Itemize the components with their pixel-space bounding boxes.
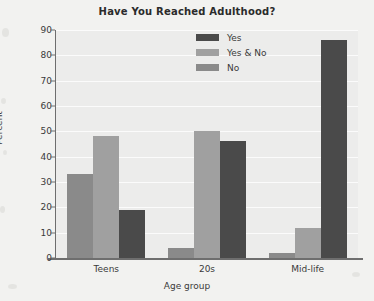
bar — [220, 141, 246, 258]
bar-chart: Have You Reached Adulthood? 010203040506… — [0, 0, 374, 301]
bar — [168, 248, 194, 258]
y-tick-mark — [50, 55, 55, 56]
y-tick-label: 50 — [12, 126, 52, 136]
y-axis-title: Percent — [0, 111, 4, 145]
bar — [321, 40, 347, 258]
y-tick-mark — [50, 207, 55, 208]
y-tick-label: 30 — [12, 177, 52, 187]
y-tick-mark — [50, 131, 55, 132]
legend-label: Yes & No — [227, 48, 267, 58]
y-tick-mark — [50, 106, 55, 107]
y-axis-line — [55, 30, 56, 259]
x-axis-line — [48, 258, 363, 260]
y-tick-mark — [50, 258, 55, 259]
chart-title: Have You Reached Adulthood? — [0, 6, 374, 17]
bar — [194, 131, 220, 258]
x-tick-label: Teens — [94, 264, 119, 274]
bar — [119, 210, 145, 258]
y-tick-label: 90 — [12, 25, 52, 35]
bar — [93, 136, 119, 258]
y-tick-label: 70 — [12, 76, 52, 86]
y-tick-label: 10 — [12, 228, 52, 238]
bar — [295, 228, 321, 258]
x-tick-label: Mid-life — [291, 264, 324, 274]
y-tick-label: 60 — [12, 101, 52, 111]
x-tick-label: 20s — [199, 264, 215, 274]
legend-swatch — [196, 64, 219, 71]
y-tick-label: 80 — [12, 50, 52, 60]
y-tick-label: 0 — [12, 253, 52, 263]
legend-item: Yes & No — [196, 45, 267, 60]
y-tick-label: 20 — [12, 202, 52, 212]
x-axis-title: Age group — [0, 281, 374, 291]
y-tick-label: 40 — [12, 152, 52, 162]
legend-swatch — [196, 34, 219, 41]
y-tick-mark — [50, 182, 55, 183]
y-tick-mark — [50, 80, 55, 81]
legend-item: Yes — [196, 30, 267, 45]
y-tick-mark — [50, 156, 55, 157]
chart-legend: YesYes & NoNo — [196, 30, 267, 75]
legend-label: Yes — [227, 33, 242, 43]
gridline — [56, 81, 358, 82]
legend-item: No — [196, 60, 267, 75]
legend-swatch — [196, 49, 219, 56]
gridline — [56, 106, 358, 107]
legend-label: No — [227, 63, 239, 73]
y-tick-mark — [50, 30, 55, 31]
y-tick-mark — [50, 232, 55, 233]
bar — [67, 174, 93, 258]
